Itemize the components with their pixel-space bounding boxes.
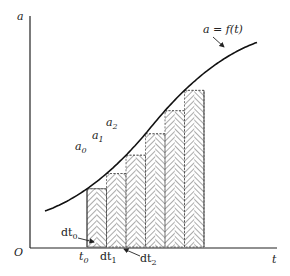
a0-label: a0 bbox=[75, 140, 87, 155]
strip-5-hatch-left bbox=[185, 90, 195, 247]
dt0-label: dt0 bbox=[61, 226, 78, 241]
strip-3-hatch-right bbox=[155, 134, 165, 247]
t0-label: t0 bbox=[79, 250, 89, 265]
origin-label: O bbox=[14, 246, 23, 259]
dt1-label: dt1 bbox=[100, 250, 117, 265]
diagram-canvas: a t O a = f(t) a0 a1 a2 t0 dt0 dt1 dt2 bbox=[0, 0, 290, 276]
strip-4-hatch-right bbox=[175, 111, 185, 247]
strip-5-hatch-right bbox=[194, 90, 204, 247]
strip-2-hatch-left bbox=[126, 155, 136, 247]
dt2-arrow bbox=[124, 249, 140, 256]
t-axis-label: t bbox=[272, 253, 277, 266]
a1-label: a1 bbox=[92, 129, 104, 144]
strip-0-hatch-right bbox=[97, 189, 107, 247]
strip-0-hatch-left bbox=[87, 189, 97, 247]
a2-label: a2 bbox=[106, 116, 118, 131]
strip-1-hatch-right bbox=[116, 174, 126, 247]
strips-group bbox=[87, 90, 204, 247]
strip-1-hatch-left bbox=[107, 174, 117, 247]
curve-label-arrow bbox=[213, 37, 224, 47]
a-axis-label: a bbox=[17, 10, 24, 23]
strip-2-hatch-right bbox=[136, 155, 146, 247]
curve-label: a = f(t) bbox=[203, 23, 243, 36]
dt2-label: dt2 bbox=[140, 252, 157, 267]
strip-4-hatch-left bbox=[165, 111, 175, 247]
strip-3-hatch-left bbox=[146, 134, 156, 247]
